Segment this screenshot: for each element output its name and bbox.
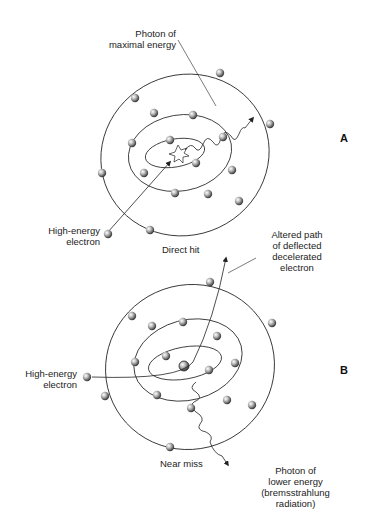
high-energy-electron-label-a: High-energy electron xyxy=(35,225,100,247)
label-line: Photon of xyxy=(258,465,333,476)
high-energy-electron-label-b: High-energy electron xyxy=(10,368,77,390)
label-line: lower energy xyxy=(258,476,333,487)
label-line: Altered path xyxy=(262,229,332,240)
near-miss-caption: Near miss xyxy=(160,458,203,469)
atom-b xyxy=(78,257,301,477)
photon-lower-energy-label: Photon of lower energy (bremsstrahlung r… xyxy=(258,465,333,509)
label-line: electron xyxy=(262,262,332,273)
altered-path-label: Altered path of deflected decelerated el… xyxy=(262,229,332,273)
label-line: High-energy xyxy=(35,225,100,236)
label-line: decelerated xyxy=(262,251,332,262)
label-line: Photon of xyxy=(98,28,176,39)
photon-maximal-label: Photon of maximal energy xyxy=(98,28,176,50)
panel-letter-b: B xyxy=(340,364,348,376)
label-line: High-energy xyxy=(10,368,77,379)
label-line: (bremsstrahlung xyxy=(258,487,333,498)
label-line: radiation) xyxy=(258,498,333,509)
direct-hit-caption: Direct hit xyxy=(162,244,199,255)
label-line: maximal energy xyxy=(98,39,176,50)
label-line: electron xyxy=(10,379,77,390)
electrons-a xyxy=(98,69,274,238)
label-line: electron xyxy=(35,236,100,247)
panel-letter-a: A xyxy=(340,132,348,144)
label-line: of deflected xyxy=(262,240,332,251)
